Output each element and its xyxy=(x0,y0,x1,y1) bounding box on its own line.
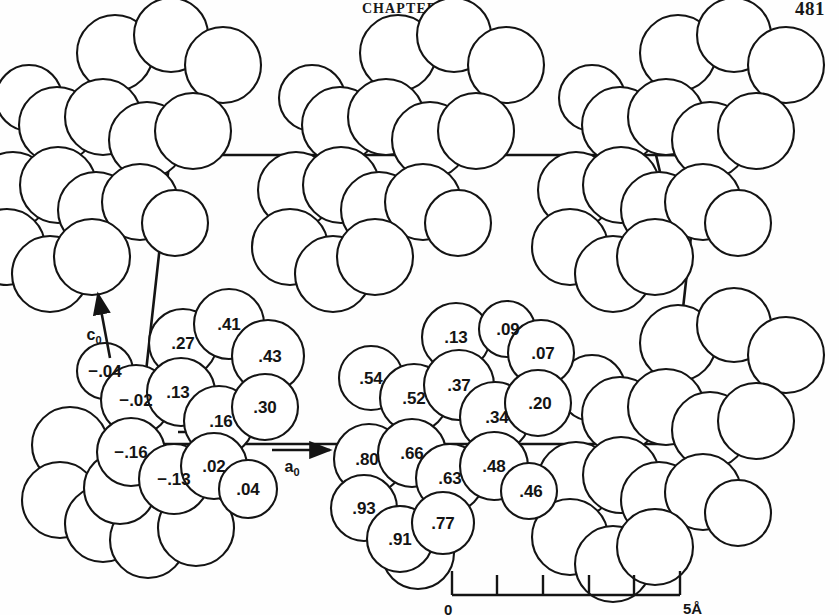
atom-label: .16 xyxy=(209,412,233,431)
atom-label: −.16 xyxy=(114,443,148,462)
atom-label: .80 xyxy=(355,450,379,469)
atom-label: .48 xyxy=(482,457,506,476)
scale-zero-label: 0 xyxy=(444,601,452,615)
atom-label: .07 xyxy=(531,344,555,363)
atom-label: .46 xyxy=(519,482,543,501)
atom-label: .13 xyxy=(444,328,468,347)
atom-label: −.02 xyxy=(119,391,153,410)
atom-label: .66 xyxy=(400,444,424,463)
atom-label: .27 xyxy=(171,334,195,353)
atom-label: .43 xyxy=(258,347,282,366)
atom-label: .34 xyxy=(485,408,509,427)
atom-cluster-bottom-right xyxy=(532,288,824,602)
atom-label: −.13 xyxy=(157,470,191,489)
scale-max-label: 5Å xyxy=(683,600,702,615)
atom-label: .93 xyxy=(352,499,376,518)
atom-label: −.04 xyxy=(88,362,122,381)
atom-cluster-top-left xyxy=(0,0,261,312)
atom-label: .52 xyxy=(402,389,426,408)
atom-label: .09 xyxy=(496,320,520,339)
atom-cluster-top-center xyxy=(252,0,544,312)
atom-label: .77 xyxy=(431,514,455,533)
atom-label: .02 xyxy=(202,457,226,476)
scanned-page: CHAPTER XVG 481 xyxy=(0,0,839,615)
atom-label: .91 xyxy=(388,530,412,549)
atom-label: .37 xyxy=(447,376,471,395)
atom-label: .04 xyxy=(236,480,260,499)
atom-label: .30 xyxy=(253,398,277,417)
atom-label: .54 xyxy=(359,369,383,388)
atom-label: .41 xyxy=(217,315,241,334)
c-axis-label: c0 xyxy=(86,326,101,346)
atom-label: .63 xyxy=(438,469,462,488)
atom-label: .13 xyxy=(166,383,190,402)
atom-cluster-top-right xyxy=(532,0,824,312)
crystal-structure-figure: −.04 .27 .41 .43 −.02 .13 .16 .30 −.16 −… xyxy=(0,0,839,615)
a-axis-label: a0 xyxy=(284,458,299,478)
atom-label: .20 xyxy=(528,394,552,413)
